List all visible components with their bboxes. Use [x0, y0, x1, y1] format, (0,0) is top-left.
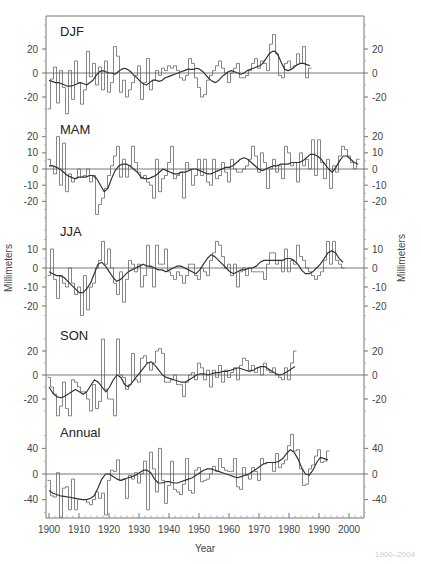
x-tick-label: 2000 — [338, 524, 361, 535]
jja-left-tick-label: -20 — [24, 301, 39, 312]
x-tick-label: 1900 — [38, 524, 61, 535]
annual-right-tick-label: 0 — [372, 469, 378, 480]
mam-right-tick-label: 0 — [372, 164, 378, 175]
son-right-tick-label: -20 — [372, 394, 387, 405]
footer-note: 1900–2004 — [375, 550, 415, 559]
mam-annual-step-series — [48, 137, 360, 215]
annual-left-tick-label: 0 — [32, 469, 38, 480]
jja-left-tick-label: 10 — [27, 244, 39, 255]
x-tick-label: 1980 — [278, 524, 301, 535]
djf-right-tick-label: -20 — [372, 92, 387, 103]
jja-panel-label: JJA — [60, 224, 82, 239]
mam-right-tick-label: 20 — [372, 131, 384, 142]
annual-left-tick-label: -40 — [24, 494, 39, 505]
son-right-tick-label: 20 — [372, 346, 384, 357]
jja-left-tick-label: 0 — [32, 263, 38, 274]
annual-right-tick-label: -40 — [372, 494, 387, 505]
jja-right-tick-label: -10 — [372, 282, 387, 293]
djf-annual-step-series — [48, 35, 312, 114]
x-tick-label: 1940 — [158, 524, 181, 535]
x-tick-label: 1960 — [218, 524, 241, 535]
annual-annual-step-series — [48, 434, 330, 517]
mam-left-tick-label: 20 — [27, 131, 39, 142]
mam-right-tick-label: 10 — [372, 147, 384, 158]
jja-left-tick-label: -10 — [24, 282, 39, 293]
x-tick-label: 1930 — [128, 524, 151, 535]
mam-right-tick-label: -10 — [372, 180, 387, 191]
mam-left-tick-label: 0 — [32, 164, 38, 175]
son-annual-step-series — [48, 339, 297, 416]
son-smoothed-curve — [49, 362, 295, 398]
y-axis-title-right: Millimeters — [396, 234, 407, 282]
x-tick-label: 1910 — [68, 524, 91, 535]
mam-left-tick-label: -10 — [24, 180, 39, 191]
x-tick-label: 1990 — [308, 524, 331, 535]
djf-left-tick-label: 0 — [32, 68, 38, 79]
son-left-tick-label: -20 — [24, 394, 39, 405]
son-right-tick-label: 0 — [372, 370, 378, 381]
x-tick-label: 1970 — [248, 524, 271, 535]
x-tick-label: 1950 — [188, 524, 211, 535]
annual-right-tick-label: 40 — [372, 443, 384, 454]
y-axis-title-left: Millimeters — [3, 244, 14, 292]
djf-right-tick-label: 0 — [372, 68, 378, 79]
mam-left-tick-label: -20 — [24, 196, 39, 207]
djf-smoothed-curve — [49, 51, 310, 86]
seasonal-precipitation-chart: 200-20200-20DJF20100-10-2020100-10-20MAM… — [0, 0, 421, 564]
son-left-tick-label: 20 — [27, 346, 39, 357]
djf-panel-label: DJF — [60, 24, 84, 39]
annual-panel-label: Annual — [60, 425, 101, 440]
jja-right-tick-label: -20 — [372, 301, 387, 312]
annual-left-tick-label: 40 — [27, 443, 39, 454]
jja-right-tick-label: 10 — [372, 244, 384, 255]
son-left-tick-label: 0 — [32, 370, 38, 381]
jja-right-tick-label: 0 — [372, 263, 378, 274]
djf-left-tick-label: 20 — [27, 44, 39, 55]
mam-panel-label: MAM — [60, 122, 90, 137]
x-axis-title: Year — [195, 543, 216, 554]
x-tick-label: 1920 — [98, 524, 121, 535]
son-panel-label: SON — [60, 328, 88, 343]
djf-right-tick-label: 20 — [372, 44, 384, 55]
mam-right-tick-label: -20 — [372, 196, 387, 207]
djf-left-tick-label: -20 — [24, 92, 39, 103]
jja-smoothed-curve — [49, 251, 343, 293]
mam-left-tick-label: 10 — [27, 147, 39, 158]
